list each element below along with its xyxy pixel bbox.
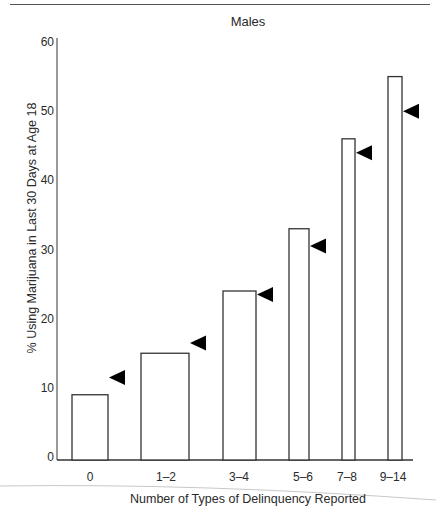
triangle-marker-icon (310, 239, 326, 254)
bar-1–2 (141, 353, 189, 460)
y-tick-label: 0 (47, 450, 54, 464)
triangle-marker-icon (190, 335, 206, 350)
bar-3–4 (223, 291, 256, 460)
triangle-marker-icon (109, 370, 125, 385)
y-tick-label: 30 (41, 243, 55, 257)
x-tick-label: 3–4 (229, 470, 249, 484)
bar-9–14 (388, 77, 402, 460)
y-tick-label: 20 (41, 312, 55, 326)
y-tick-label: 10 (41, 381, 55, 395)
y-axis-ticks: 0102030405060 (41, 35, 55, 464)
x-tick-label: 0 (87, 470, 94, 484)
triangle-marker-icon (403, 104, 419, 119)
bar-0 (72, 395, 108, 460)
x-tick-label: 9–14 (380, 470, 407, 484)
bar-7–8 (342, 139, 355, 460)
x-tick-label: 7–8 (337, 470, 357, 484)
bar-5–6 (289, 229, 309, 460)
y-tick-label: 60 (41, 35, 55, 49)
triangle-marker-icon (257, 287, 273, 302)
x-axis-title: Number of Types of Delinquency Reported (130, 492, 366, 506)
chart-page: Males % Using Marijuana in Last 30 Days … (0, 0, 436, 516)
bar-chart-plot: 0102030405060 01–23–45–67–89–14 (0, 0, 436, 516)
x-tick-label: 1–2 (156, 470, 176, 484)
x-axis-labels: 01–23–45–67–89–14 (87, 470, 407, 484)
y-tick-label: 50 (41, 104, 55, 118)
bar-series (72, 77, 402, 460)
triangle-marker-series (109, 104, 419, 385)
x-tick-label: 5–6 (293, 470, 313, 484)
y-tick-label: 40 (41, 173, 55, 187)
triangle-marker-icon (356, 145, 372, 160)
